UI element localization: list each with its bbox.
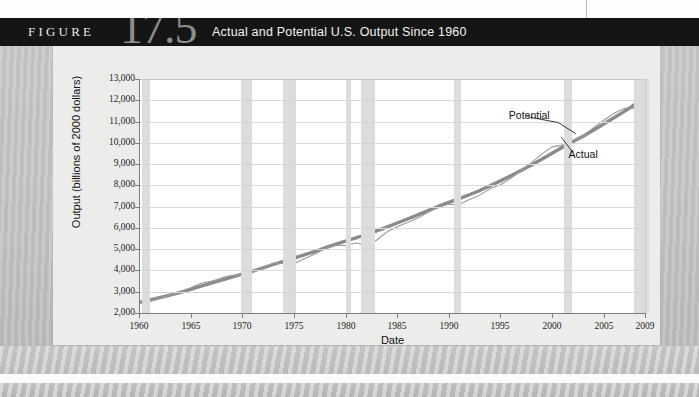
- x-axis-tick-label: 1980: [326, 321, 366, 331]
- y-axis-tick-label: 8,000: [114, 179, 135, 189]
- annotation-potential: Potential: [509, 109, 550, 121]
- y-axis-tick-label: 11,000: [109, 116, 135, 126]
- gridline: [139, 292, 645, 293]
- annotation-actual: Actual: [569, 148, 598, 160]
- page-rule: [586, 0, 587, 20]
- x-axis-tick-labels: 1960196519701975198019851990199520002005…: [139, 314, 646, 334]
- y-axis-tick-label: 4,000: [114, 264, 135, 274]
- y-axis: [139, 79, 140, 314]
- recession-band: [361, 79, 375, 313]
- y-axis-tick-label: 7,000: [114, 201, 135, 211]
- figure-page: FIGURE 17.5 Actual and Potential U.S. Ou…: [0, 0, 699, 397]
- recession-band: [241, 79, 251, 313]
- plot-right-border: [645, 79, 646, 314]
- figure-header-bar: FIGURE 17.5 Actual and Potential U.S. Ou…: [0, 18, 699, 46]
- page-bottom-texture: [0, 346, 699, 374]
- y-axis-tick: [135, 292, 139, 293]
- gridline: [139, 164, 645, 165]
- x-axis-tick-label: 1965: [171, 321, 211, 331]
- plot-area: [139, 79, 645, 313]
- plot-top-border: [139, 79, 646, 80]
- y-axis-tick: [135, 143, 139, 144]
- recession-band: [142, 79, 150, 313]
- recession-band: [634, 79, 649, 313]
- recession-band: [346, 79, 351, 313]
- y-axis-tick-label: 6,000: [114, 222, 135, 232]
- y-axis-tick-label: 12,000: [109, 94, 135, 104]
- y-axis-tick: [135, 164, 139, 165]
- y-axis-tick: [135, 207, 139, 208]
- figure-caption: Actual and Potential U.S. Output Since 1…: [212, 25, 467, 39]
- gridline: [139, 143, 645, 144]
- page-bottom-texture-2: [0, 383, 699, 397]
- y-axis-tick: [135, 100, 139, 101]
- y-axis-tick: [135, 185, 139, 186]
- x-axis-tick-label: 2000: [532, 321, 572, 331]
- chart-panel: 2,0003,0004,0005,0006,0007,0008,0009,000…: [53, 46, 660, 345]
- y-axis-tick-label: 2,000: [114, 307, 135, 317]
- recession-band: [454, 79, 461, 313]
- x-axis-tick-label: 1970: [222, 321, 262, 331]
- gridline: [139, 228, 645, 229]
- y-axis-tick-labels: 2,0003,0004,0005,0006,0007,0008,0009,000…: [93, 79, 135, 314]
- recession-band: [564, 79, 571, 313]
- y-axis-tick: [135, 249, 139, 250]
- y-axis-tick: [135, 122, 139, 123]
- chart-area: 2,0003,0004,0005,0006,0007,0008,0009,000…: [53, 46, 660, 345]
- y-axis-tick: [135, 270, 139, 271]
- x-axis-tick-label: 1990: [429, 321, 469, 331]
- y-axis-tick-label: 3,000: [114, 286, 135, 296]
- figure-word: FIGURE: [28, 24, 94, 40]
- x-axis-tick-label: 1975: [274, 321, 314, 331]
- gridline: [139, 207, 645, 208]
- gridline: [139, 185, 645, 186]
- page-top-margin: [0, 0, 699, 18]
- gridline: [139, 100, 645, 101]
- y-axis-tick-label: 9,000: [114, 158, 135, 168]
- page-gap: [0, 374, 699, 383]
- x-axis-tick-label: 2009: [625, 321, 665, 331]
- figure-number: 17.5: [120, 18, 197, 46]
- y-axis-tick-label: 5,000: [114, 243, 135, 253]
- y-axis-tick: [135, 79, 139, 80]
- gridline: [139, 249, 645, 250]
- x-axis-title: Date: [139, 334, 646, 346]
- gridline: [139, 270, 645, 271]
- y-axis-title: Output (billions of 2000 dollars): [70, 52, 82, 252]
- y-axis-tick-label: 13,000: [109, 73, 135, 83]
- x-axis-tick-label: 1960: [119, 321, 159, 331]
- x-axis-tick-label: 2005: [584, 321, 624, 331]
- y-axis-tick: [135, 228, 139, 229]
- recession-band: [283, 79, 296, 313]
- gridline: [139, 122, 645, 123]
- x-axis-tick-label: 1995: [480, 321, 520, 331]
- x-axis-tick-label: 1985: [377, 321, 417, 331]
- y-axis-tick-label: 10,000: [109, 137, 135, 147]
